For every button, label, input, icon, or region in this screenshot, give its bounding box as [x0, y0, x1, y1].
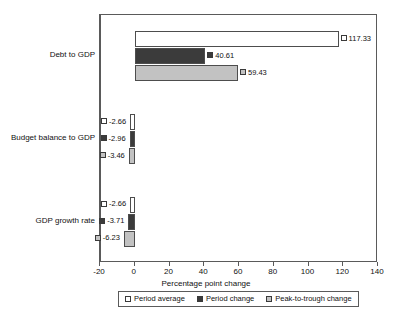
legend-swatch-icon	[125, 296, 131, 302]
legend-marker-icon	[207, 52, 213, 58]
x-tick-label-0: -20	[93, 267, 105, 277]
x-tick-label-6: 100	[301, 267, 314, 277]
bar-1-2	[129, 148, 135, 164]
value-label-2-0: -2.66	[101, 199, 126, 208]
legend-marker-icon	[240, 69, 246, 75]
bar-0-0	[135, 31, 339, 47]
x-tick-3	[203, 262, 204, 266]
value-label-0-1: 40.61	[207, 51, 234, 60]
legend-marker-icon	[101, 135, 107, 141]
value-label-1-2: -3.46	[100, 151, 125, 160]
value-label-0-0: 117.33	[341, 34, 371, 43]
value-text: -2.96	[109, 134, 126, 143]
x-tick-label-4: 60	[234, 267, 243, 277]
legend-swatch-icon	[266, 296, 272, 302]
legend-label: Period change	[206, 294, 254, 304]
value-label-0-2: 59.43	[240, 68, 267, 77]
category-label-1: Budget balance to GDP	[11, 133, 95, 143]
category-label-2: GDP growth rate	[36, 216, 95, 226]
plot-area	[99, 14, 377, 262]
value-text: -3.46	[108, 151, 125, 160]
legend-item-2[interactable]: Peak-to-trough change	[266, 294, 351, 304]
value-text: 117.33	[349, 34, 371, 43]
x-tick-5	[273, 262, 274, 266]
legend-marker-icon	[99, 218, 105, 224]
chart-container: Debt to GDPBudget balance to GDPGDP grow…	[0, 0, 412, 317]
legend-marker-icon	[101, 201, 107, 207]
category-label-0: Debt to GDP	[50, 50, 95, 60]
x-axis-title: Percentage point change	[0, 279, 412, 289]
x-tick-label-7: 120	[336, 267, 349, 277]
x-tick-6	[308, 262, 309, 266]
legend-swatch-icon	[197, 296, 203, 302]
value-text: -3.71	[107, 216, 124, 225]
x-tick-7	[342, 262, 343, 266]
value-label-1-0: -2.66	[101, 117, 126, 126]
bar-0-2	[135, 65, 238, 81]
value-text: -2.66	[109, 199, 126, 208]
value-label-2-2: -6.23	[95, 233, 120, 242]
x-tick-8	[377, 262, 378, 266]
bar-1-0	[130, 114, 135, 130]
chart-legend: Period averagePeriod changePeak-to-troug…	[118, 291, 359, 307]
legend-marker-icon	[341, 35, 347, 41]
bar-2-0	[130, 197, 135, 213]
x-tick-4	[238, 262, 239, 266]
x-tick-0	[99, 262, 100, 266]
value-label-1-1: -2.96	[101, 134, 126, 143]
x-tick-label-1: 0	[132, 267, 136, 277]
x-tick-label-3: 40	[199, 267, 208, 277]
bar-0-1	[135, 48, 206, 64]
legend-marker-icon	[101, 118, 107, 124]
value-text: -2.66	[109, 117, 126, 126]
value-label-2-1: -3.71	[99, 216, 124, 225]
x-tick-label-2: 20	[164, 267, 173, 277]
value-text: 59.43	[248, 68, 267, 77]
legend-marker-icon	[95, 235, 101, 241]
legend-label: Peak-to-trough change	[275, 294, 351, 304]
bar-2-1	[128, 214, 134, 230]
legend-item-0[interactable]: Period average	[125, 294, 185, 304]
bar-2-2	[124, 231, 135, 247]
x-tick-2	[169, 262, 170, 266]
x-tick-label-5: 80	[268, 267, 277, 277]
legend-marker-icon	[100, 152, 106, 158]
value-text: 40.61	[215, 51, 234, 60]
legend-item-1[interactable]: Period change	[197, 294, 254, 304]
bar-1-1	[130, 131, 135, 147]
value-text: -6.23	[103, 233, 120, 242]
x-tick-1	[134, 262, 135, 266]
x-tick-label-8: 140	[370, 267, 383, 277]
legend-label: Period average	[134, 294, 185, 304]
